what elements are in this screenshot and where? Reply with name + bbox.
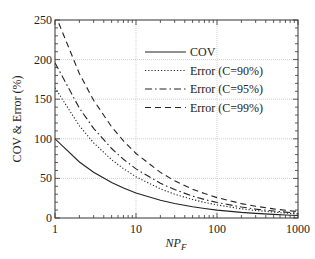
y-tick-label: 250 [34,13,52,27]
legend-label: COV [190,45,216,59]
y-tick-label: 150 [34,92,52,106]
x-axis-label: NPF [165,236,187,252]
series-line [55,63,304,214]
x-tick-label: 100 [208,222,226,236]
y-tick-labels: 050100150200250 [34,13,52,225]
y-axis-label: COV & Error (%) [10,76,24,163]
y-tick-label: 100 [34,132,52,146]
series-line [55,88,304,215]
y-tick-label: 200 [34,53,52,67]
x-tick-label: 10 [130,222,142,236]
series-line [55,14,304,212]
y-tick-label: 50 [40,171,52,185]
data-series [55,14,304,216]
legend-label: Error (C=90%) [190,64,263,78]
legend-label: Error (C=95%) [190,82,263,96]
plot-frame [55,20,298,218]
grid-lines [55,20,298,218]
x-tick-labels: 1101001000 [52,222,310,236]
series-line [55,139,304,216]
x-tick-label: 1 [52,222,58,236]
x-tick-label: 1000 [286,222,310,236]
axis-ticks [55,20,298,218]
legend: COVError (C=90%)Error (C=95%)Error (C=99… [145,45,263,115]
legend-label: Error (C=99%) [190,101,263,115]
chart-figure: 050100150200250 1101001000 COVError (C=9… [0,0,315,259]
line-chart: 050100150200250 1101001000 COVError (C=9… [0,0,315,259]
